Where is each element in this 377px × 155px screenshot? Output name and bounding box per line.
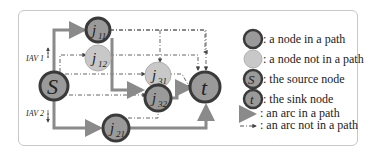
svg-text:t: t [201, 75, 208, 100]
iav2-label: IAV 2 [25, 109, 44, 118]
node-in-path-icon [244, 30, 262, 48]
node-s: S [40, 72, 68, 100]
arcs-not-in-path [48, 30, 206, 120]
node-j11: j 11 [86, 18, 110, 42]
iav1-label: IAV 1 [25, 54, 44, 63]
node-j21: j 21 [103, 115, 129, 141]
svg-text:21: 21 [116, 129, 125, 139]
svg-text:: an arc not in a path: : an arc not in a path [260, 118, 358, 132]
svg-text:: the sink node: : the sink node [263, 92, 333, 106]
node-j12: j 12 [85, 45, 111, 71]
svg-text:11: 11 [98, 31, 106, 41]
svg-text:: a node in a path: : a node in a path [263, 32, 345, 46]
svg-text:12: 12 [98, 59, 108, 69]
svg-text:t: t [250, 92, 254, 107]
node-not-in-path-icon [244, 50, 262, 68]
arcs-in-path [54, 30, 206, 128]
svg-text:32: 32 [157, 99, 168, 109]
svg-text:: a node not in a path: : a node not in a path [263, 52, 364, 66]
legend: : a node in a path : a node not in a pat… [240, 30, 364, 132]
node-t: t [190, 72, 220, 102]
legend-item-source-node: S : the source node [244, 70, 345, 88]
legend-item-node-in-path: : a node in a path [244, 30, 345, 48]
path-diagram: S j 11 j 12 j 31 j 32 j 21 t IAV 1 IAV 2… [0, 0, 377, 155]
svg-text:: the source node: : the source node [263, 72, 345, 86]
legend-item-arc-not-in-path: : an arc not in a path [240, 118, 358, 132]
node-j32: j 32 [145, 85, 171, 111]
legend-item-node-not-in-path: : a node not in a path [244, 50, 364, 68]
svg-text:S: S [248, 72, 255, 87]
svg-text:S: S [47, 74, 58, 99]
